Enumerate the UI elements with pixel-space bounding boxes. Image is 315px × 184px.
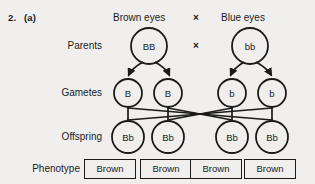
phenotype-box-4: Brown bbox=[244, 159, 296, 179]
phenotype-box-2: Brown bbox=[140, 159, 192, 179]
row-label-gametes: Gametes bbox=[36, 88, 102, 98]
offspring-genotype-4: Bb bbox=[257, 133, 287, 143]
arrow-parentbb-to-gamete-4 bbox=[256, 62, 272, 76]
parents-cross-symbol: × bbox=[193, 41, 199, 51]
row-label-parents: Parents bbox=[42, 41, 102, 51]
connector-diagonal-4 bbox=[128, 108, 272, 120]
offspring-genotype-2: Bb bbox=[153, 133, 183, 143]
genetics-cross-diagram: 2. (a) Brown eyes × Blue eyes Parents Ga… bbox=[0, 0, 315, 184]
arrow-parentBB-to-gamete-1 bbox=[129, 62, 144, 76]
parent-genotype-2: bb bbox=[235, 42, 265, 52]
phenotype-box-3: Brown bbox=[190, 159, 242, 179]
arrow-parentBB-to-gamete-2 bbox=[155, 62, 170, 76]
row-label-offspring: Offspring bbox=[28, 132, 102, 142]
gamete-allele-3: b bbox=[222, 89, 242, 99]
header-right-phenotype: Blue eyes bbox=[221, 13, 265, 23]
connector-diagonal-3 bbox=[168, 108, 232, 120]
header-left-phenotype: Brown eyes bbox=[113, 13, 165, 23]
gamete-allele-1: B bbox=[118, 89, 138, 99]
row-label-phenotype: Phenotype bbox=[10, 164, 80, 174]
connector-diagonal-1 bbox=[128, 108, 272, 120]
arrow-parentbb-to-gamete-3 bbox=[231, 62, 245, 76]
header-cross-symbol: × bbox=[193, 13, 199, 23]
gamete-allele-2: B bbox=[158, 89, 178, 99]
phenotype-box-1: Brown bbox=[84, 159, 136, 179]
question-number: 2. bbox=[8, 13, 16, 23]
connector-diagonal-2 bbox=[168, 108, 232, 120]
offspring-genotype-1: Bb bbox=[113, 133, 143, 143]
gamete-allele-4: b bbox=[262, 89, 282, 99]
parent-genotype-1: BB bbox=[134, 42, 164, 52]
offspring-genotype-3: Bb bbox=[217, 133, 247, 143]
question-part: (a) bbox=[24, 13, 36, 23]
